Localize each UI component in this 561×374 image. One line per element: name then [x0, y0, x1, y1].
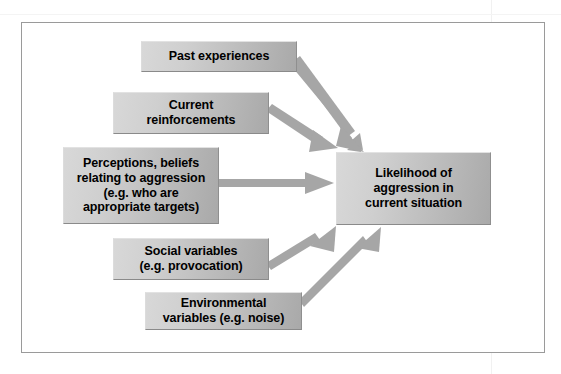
node-past-experiences: Past experiences: [141, 41, 297, 72]
node-outcome-label: Likelihood of aggression in current situ…: [361, 166, 466, 210]
node-environmental-variables-label: Environmental variables (e.g. noise): [159, 296, 288, 326]
node-social-variables: Social variables (e.g. provocation): [113, 238, 269, 280]
node-perceptions: Perceptions, beliefs relating to aggress…: [63, 147, 219, 224]
node-current-reinforcements: Current reinforcements: [113, 92, 269, 134]
flow-diagram: Past experiences Current reinforcements …: [0, 0, 561, 374]
node-perceptions-label: Perceptions, beliefs relating to aggress…: [73, 156, 209, 215]
node-current-reinforcements-label: Current reinforcements: [143, 98, 240, 128]
edge-social-variables: [266, 226, 336, 270]
edge-perceptions: [219, 172, 334, 194]
edge-current-reinforcements: [266, 104, 338, 152]
node-past-experiences-label: Past experiences: [165, 49, 274, 64]
node-environmental-variables: Environmental variables (e.g. noise): [145, 292, 302, 330]
node-social-variables-label: Social variables (e.g. provocation): [135, 244, 246, 274]
edge-past-experiences-shaft: [292, 56, 364, 152]
node-outcome: Likelihood of aggression in current situ…: [336, 152, 491, 225]
